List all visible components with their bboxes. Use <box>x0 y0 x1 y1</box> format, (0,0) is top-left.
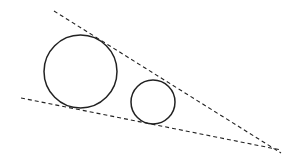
large-circle <box>44 35 117 108</box>
tangent-circles-diagram <box>0 0 299 165</box>
small-circle <box>131 80 175 124</box>
upper-tangent-line <box>54 11 281 153</box>
